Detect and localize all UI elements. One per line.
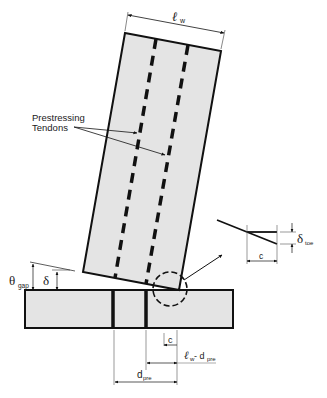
lw-minus-dpre-label: ℓ: [184, 349, 189, 361]
delta-label: δ: [43, 273, 49, 288]
base-c-label: c: [168, 335, 173, 345]
svg-text:pre: pre: [207, 356, 216, 362]
svg-text:- d: - d: [194, 351, 205, 361]
theta-gap-label: θ: [9, 273, 15, 288]
delta-toe-label: δ: [297, 231, 303, 246]
tendons-label-2: Tendons: [32, 122, 68, 133]
bottom-dimensions: c ℓ w - d pre d pre: [114, 330, 216, 385]
foundation-block: [25, 290, 233, 328]
dpre-label: d: [137, 369, 143, 380]
svg-text:toe: toe: [305, 240, 314, 246]
wall-length-label: ℓ: [172, 9, 178, 24]
rocking-wall-diagram: ℓ w Prestressing Tendons θ gap δ c δ to: [0, 0, 327, 398]
svg-text:pre: pre: [143, 375, 152, 381]
toe-c-label: c: [259, 251, 264, 261]
toe-detail: c δ toe: [217, 220, 314, 264]
svg-text:gap: gap: [18, 282, 29, 290]
svg-text:w: w: [179, 17, 186, 24]
wall-panel: [83, 33, 221, 290]
rotation-annotation: θ gap δ: [9, 262, 75, 290]
